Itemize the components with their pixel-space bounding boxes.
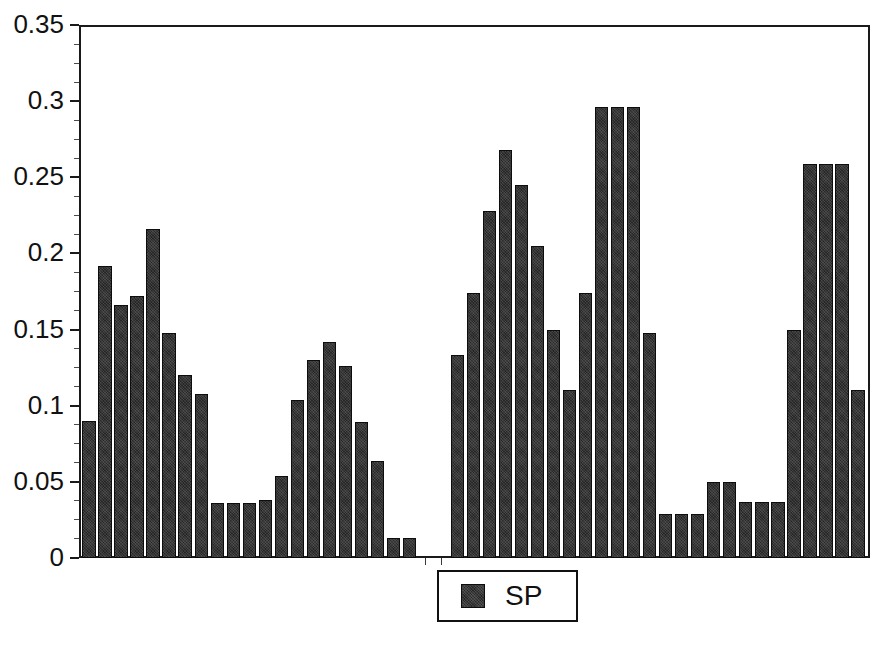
- bar: [275, 476, 288, 558]
- bar: [515, 185, 528, 558]
- bar: [403, 538, 416, 558]
- bar: [339, 366, 352, 558]
- bar: [178, 375, 191, 558]
- bar-chart-figure: 00.050.10.150.20.250.30.35 SP: [0, 0, 891, 648]
- bar: [851, 390, 864, 558]
- bar: [243, 503, 256, 558]
- bar: [611, 107, 624, 558]
- bar: [547, 330, 560, 558]
- bar: [307, 360, 320, 558]
- bar: [595, 107, 608, 558]
- bar: [627, 107, 640, 558]
- bar: [499, 150, 512, 558]
- legend-swatch-sp: [461, 584, 485, 608]
- bar: [691, 514, 704, 558]
- bar-series-sp: [0, 0, 891, 648]
- bar: [130, 296, 143, 558]
- bar: [771, 502, 784, 558]
- bar: [387, 538, 400, 558]
- bar: [114, 305, 127, 558]
- bar: [483, 211, 496, 558]
- bar: [259, 500, 272, 558]
- bar: [819, 164, 832, 558]
- bar: [451, 355, 464, 558]
- bar: [723, 482, 736, 558]
- bar: [355, 422, 368, 558]
- bar: [467, 293, 480, 558]
- legend-label-sp: SP: [505, 582, 542, 610]
- chart-legend: SP: [437, 570, 578, 622]
- bar: [563, 390, 576, 558]
- bar: [835, 164, 848, 558]
- bar: [531, 246, 544, 558]
- bar: [659, 514, 672, 558]
- bar: [803, 164, 816, 558]
- bar: [162, 333, 175, 558]
- bar: [675, 514, 688, 558]
- bar: [323, 342, 336, 558]
- bar: [739, 502, 752, 558]
- bar: [146, 229, 159, 558]
- bar: [98, 266, 111, 558]
- bar: [643, 333, 656, 558]
- bar: [211, 503, 224, 558]
- bar: [227, 503, 240, 558]
- bar: [291, 400, 304, 558]
- bar: [755, 502, 768, 558]
- bar: [579, 293, 592, 558]
- bar: [787, 330, 800, 558]
- bar: [371, 461, 384, 558]
- bar: [707, 482, 720, 558]
- bar: [195, 394, 208, 558]
- bar: [82, 421, 95, 558]
